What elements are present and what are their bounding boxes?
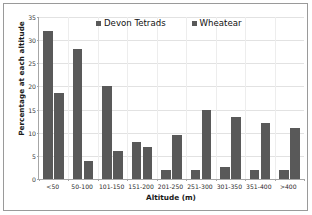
- bar-devon-tetrads[interactable]: [102, 86, 112, 179]
- bar-devon-tetrads[interactable]: [220, 167, 230, 179]
- bar-devon-tetrads[interactable]: [132, 142, 142, 179]
- y-tick-label: 20: [28, 83, 36, 90]
- bar-devon-tetrads[interactable]: [250, 170, 260, 179]
- category-separator: [275, 17, 276, 179]
- bar-wheatear[interactable]: [54, 93, 64, 179]
- legend-item-devon-tetrads[interactable]: Devon Tetrads: [96, 18, 166, 28]
- category-separator: [216, 17, 217, 179]
- bar-devon-tetrads[interactable]: [191, 170, 201, 179]
- chart-legend: Devon Tetrads Wheatear: [96, 18, 242, 28]
- bar-wheatear[interactable]: [143, 147, 153, 179]
- bar-wheatear[interactable]: [261, 123, 271, 179]
- bar-devon-tetrads[interactable]: [43, 31, 53, 179]
- x-tick-label: 201-250: [158, 183, 183, 190]
- x-tick-label: 351-400: [246, 183, 271, 190]
- plot-area: 05101520253035: [38, 17, 304, 180]
- x-tick-label: >400: [280, 183, 297, 190]
- y-tick-label: 10: [28, 129, 36, 136]
- y-tick-label: 5: [32, 152, 36, 159]
- legend-label: Devon Tetrads: [104, 18, 166, 28]
- bar-wheatear[interactable]: [113, 151, 123, 179]
- x-tick-mark: [186, 179, 187, 181]
- x-tick-label: 50-100: [71, 183, 93, 190]
- y-tick-label: 30: [28, 37, 36, 44]
- bar-wheatear[interactable]: [84, 161, 94, 180]
- category-separator: [186, 17, 187, 179]
- category-separator: [98, 17, 99, 179]
- x-tick-label: 301-350: [217, 183, 242, 190]
- x-tick-mark: [127, 179, 128, 181]
- x-tick-mark: [275, 179, 276, 181]
- legend-item-wheatear[interactable]: Wheatear: [192, 18, 242, 28]
- x-tick-mark: [68, 179, 69, 181]
- bar-wheatear[interactable]: [231, 117, 241, 179]
- bar-wheatear[interactable]: [202, 110, 212, 179]
- y-tick-mark: [37, 40, 39, 41]
- bar-wheatear[interactable]: [290, 128, 300, 179]
- x-tick-label: 101-150: [99, 183, 124, 190]
- bar-devon-tetrads[interactable]: [161, 170, 171, 179]
- gridline: [39, 40, 304, 41]
- y-tick-mark: [37, 17, 39, 18]
- x-tick-mark: [157, 179, 158, 181]
- x-tick-mark: [245, 179, 246, 181]
- x-tick-label: 151-200: [128, 183, 153, 190]
- y-tick-mark: [37, 86, 39, 87]
- y-tick-mark: [37, 63, 39, 64]
- legend-label: Wheatear: [200, 18, 242, 28]
- bar-wheatear[interactable]: [172, 135, 182, 179]
- category-separator: [127, 17, 128, 179]
- x-tick-mark: [216, 179, 217, 181]
- legend-swatch-icon: [96, 21, 101, 26]
- y-tick-label: 35: [28, 14, 36, 21]
- legend-swatch-icon: [192, 21, 197, 26]
- y-tick-mark: [37, 110, 39, 111]
- bar-devon-tetrads[interactable]: [73, 49, 83, 179]
- x-tick-label: 251-300: [187, 183, 212, 190]
- y-tick-mark: [37, 156, 39, 157]
- category-separator: [157, 17, 158, 179]
- x-axis-title: Altitude (m): [38, 193, 304, 202]
- bar-devon-tetrads[interactable]: [279, 170, 289, 179]
- y-tick-label: 25: [28, 60, 36, 67]
- y-axis-title: Percentage at each altitude: [17, 4, 26, 154]
- x-tick-mark: [98, 179, 99, 181]
- chart-figure: Percentage at each altitude 051015202530…: [0, 0, 312, 215]
- y-tick-label: 15: [28, 106, 36, 113]
- x-tick-mark: [39, 179, 40, 181]
- x-tick-label: <50: [46, 183, 59, 190]
- y-tick-mark: [37, 133, 39, 134]
- category-separator: [245, 17, 246, 179]
- x-tick-mark: [304, 179, 305, 181]
- category-separator: [68, 17, 69, 179]
- y-tick-label: 0: [32, 176, 36, 183]
